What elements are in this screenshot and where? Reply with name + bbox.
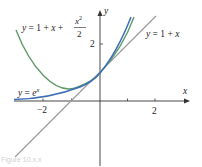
chart-canvas: −2 2 2 x y y = 1 + x y = 1 + x + x2 2 y … bbox=[0, 0, 202, 167]
y-axis-arrow-icon bbox=[98, 10, 103, 16]
y-axis-label: y bbox=[103, 6, 109, 16]
figure-caption: Figure 10.x.x bbox=[1, 156, 41, 163]
x-axis-arrow-icon bbox=[184, 99, 190, 104]
label-parabola: y = 1 + x + bbox=[21, 23, 63, 33]
x-tick-label-2: 2 bbox=[152, 106, 157, 116]
y-tick-label-2: 2 bbox=[90, 39, 95, 49]
label-line: y = 1 + x bbox=[145, 29, 180, 39]
x-axis-label: x bbox=[182, 86, 188, 96]
label-parabola-numerator: x2 bbox=[74, 15, 82, 26]
x-tick-label-neg2: −2 bbox=[37, 105, 47, 115]
label-exp: y = ex bbox=[17, 86, 40, 98]
label-parabola-denominator: 2 bbox=[77, 29, 82, 39]
